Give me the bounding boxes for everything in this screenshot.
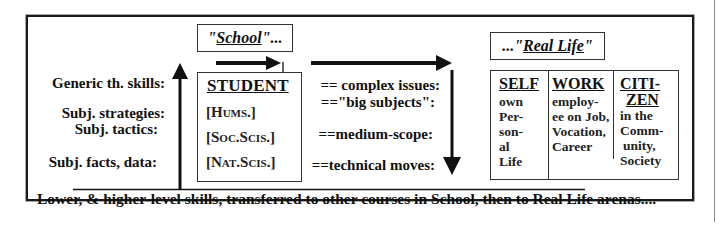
down-arrow-icon <box>443 70 461 175</box>
label-complex-issues: == complex issues: <box>300 78 440 93</box>
arena-self: SELF own Per- son- al Life <box>499 76 547 169</box>
right-arrow-icon <box>216 56 281 70</box>
school-title-box: "School"... <box>197 24 293 52</box>
student-box: STUDENT [Hums.] [Soc.Scis.] [Nat.Scis.] <box>197 72 302 182</box>
label-subj-facts: Subj. facts, data: <box>40 155 157 170</box>
subject-humanities: [Hums.] <box>206 104 256 121</box>
arena-self-text: own Per- son- al Life <box>499 94 547 169</box>
arena-self-line: son- <box>499 124 547 139</box>
real-life-title-prefix: ..." <box>502 37 523 55</box>
arena-citizen-text: in the Comm- unity, Society <box>620 108 678 168</box>
school-title-word: School <box>216 29 261 47</box>
bottom-caption: Lower, & higher-level skills, transferre… <box>37 190 656 208</box>
label-technical-moves: ==technical moves: <box>300 158 435 173</box>
arena-work-line: Vocation, <box>552 124 614 139</box>
arena-work-text: employ- ee on Job, Vocation, Career <box>552 94 614 154</box>
real-life-title-word: Real Life <box>523 37 584 55</box>
arena-citizen-line: in the <box>620 108 678 123</box>
label-subj-strategies: Subj. strategies: <box>40 106 165 121</box>
arena-citizen-line: Comm- <box>620 123 678 138</box>
arena-self-line: Life <box>499 154 547 169</box>
right-arrow-long-icon <box>311 55 452 71</box>
school-title-quote: " <box>207 29 216 47</box>
arena-work: WORK employ- ee on Job, Vocation, Career <box>552 76 614 154</box>
student-title: STUDENT <box>207 76 289 96</box>
subject-natural-sciences: [Nat.Scis.] <box>206 154 275 171</box>
arena-work-line: ee on Job, <box>552 109 614 124</box>
up-arrow-icon <box>172 63 188 190</box>
arena-citizen: CITI- ZEN in the Comm- unity, Society <box>620 76 678 168</box>
arena-work-line: Career <box>552 139 614 154</box>
label-generic-skills: Generic th. skills: <box>40 76 165 91</box>
label-medium-scope: ==medium-scope: <box>300 127 433 142</box>
arena-self-line: Per- <box>499 109 547 124</box>
arena-citizen-line: Society <box>620 153 678 168</box>
arena-citizen-title-1: CITI- <box>620 76 678 92</box>
arenas-box: SELF own Per- son- al Life WORK employ- … <box>490 70 679 180</box>
arena-citizen-line: unity, <box>623 138 678 153</box>
real-life-title-quote: " <box>584 37 593 55</box>
arena-work-title: WORK <box>552 76 614 92</box>
arena-citizen-title-2: ZEN <box>626 92 678 108</box>
arena-work-line: employ- <box>552 94 614 109</box>
real-life-title-box: ..."Real Life" <box>490 32 605 60</box>
label-subj-tactics: Subj. tactics: <box>40 122 158 137</box>
subject-social-sciences: [Soc.Scis.] <box>206 129 275 146</box>
label-big-subjects: =="big subjects": <box>300 95 435 110</box>
arena-self-title: SELF <box>499 76 547 92</box>
arena-divider-1 <box>548 71 549 180</box>
arena-self-line: al <box>499 139 547 154</box>
school-title-suffix: "... <box>262 29 283 47</box>
arena-self-line: own <box>499 94 547 109</box>
